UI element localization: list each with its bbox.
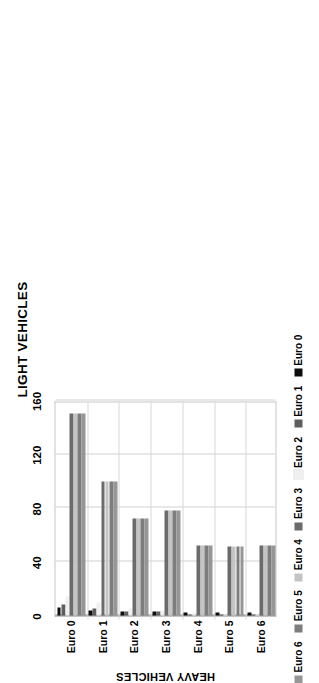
bar-euro-0-euro-1 <box>88 610 92 615</box>
bar-euro-6-euro-1 <box>113 481 117 615</box>
value-tick-label: 120 <box>30 445 42 464</box>
legend-swatch-icon <box>294 573 302 581</box>
bar-euro-1-euro-1 <box>92 608 96 615</box>
value-tick-label: 160 <box>30 391 42 410</box>
bar-euro-6-euro-0 <box>81 413 85 615</box>
bar-euro-3-euro-6 <box>259 545 263 615</box>
legend-item-euro-4[interactable]: Euro 4 <box>292 539 303 581</box>
bar-euro-1-euro-6 <box>251 614 255 615</box>
bar-euro-0-euro-4 <box>183 612 187 615</box>
legend-label: Euro 4 <box>292 539 303 570</box>
bar-euro-1-euro-3 <box>156 611 160 615</box>
bar-euro-4-euro-0 <box>73 413 77 615</box>
category-label-euro-4: Euro 4 <box>191 620 203 678</box>
bar-euro-1-euro-4 <box>188 614 192 615</box>
bar-euro-2-euro-4 <box>192 612 196 615</box>
category-separator <box>245 402 246 619</box>
bar-euro-3-euro-2 <box>132 518 136 615</box>
legend-item-euro-3[interactable]: Euro 3 <box>292 487 303 529</box>
bar-euro-6-euro-4 <box>208 545 212 615</box>
legend-swatch-icon <box>294 419 302 427</box>
bar-euro-5-euro-1 <box>109 481 113 615</box>
category-separator <box>118 402 119 619</box>
bar-euro-1-euro-5 <box>219 614 223 615</box>
legend-swatch-icon <box>294 675 302 683</box>
bar-euro-2-euro-5 <box>223 614 227 615</box>
bar-euro-5-euro-0 <box>77 413 81 615</box>
legend-label: Euro 3 <box>292 487 303 518</box>
bar-euro-3-euro-0 <box>69 413 73 615</box>
bar-euro-3-euro-1 <box>101 481 105 615</box>
legend-swatch-icon <box>294 368 302 376</box>
legend-swatch-icon <box>294 470 302 478</box>
legend-label: Euro 2 <box>292 436 303 467</box>
bar-euro-4-euro-6 <box>263 545 267 615</box>
legend-label: Euro 0 <box>292 334 303 365</box>
category-label-euro-2: Euro 2 <box>127 620 139 678</box>
bar-euro-6-euro-3 <box>176 510 180 615</box>
legend-item-euro-1[interactable]: Euro 1 <box>292 385 303 427</box>
category-separator <box>87 402 88 619</box>
gridline-160 <box>55 399 275 400</box>
category-separator <box>214 402 215 619</box>
legend-swatch-icon <box>294 624 302 632</box>
bar-euro-4-euro-4 <box>200 545 204 615</box>
bar-euro-5-euro-2 <box>140 518 144 615</box>
value-tick-label: 80 <box>30 502 42 515</box>
category-label-euro-5: Euro 5 <box>222 620 234 678</box>
category-label-euro-6: Euro 6 <box>254 620 266 678</box>
bar-euro-6-euro-6 <box>271 545 275 615</box>
bar-euro-0-euro-0 <box>57 607 61 615</box>
category-label-euro-1: Euro 1 <box>96 620 108 678</box>
bar-euro-5-euro-6 <box>267 545 271 615</box>
bar-euro-1-euro-2 <box>124 611 128 615</box>
bar-euro-2-euro-3 <box>160 610 164 615</box>
bar-euro-3-euro-4 <box>196 545 200 615</box>
legend-label: Euro 5 <box>292 590 303 621</box>
legend-swatch-icon <box>294 522 302 530</box>
legend-item-euro-2[interactable]: Euro 2 <box>292 436 303 478</box>
bar-euro-5-euro-4 <box>204 545 208 615</box>
plot-area <box>54 401 276 616</box>
value-tick-label: 0 <box>30 613 42 619</box>
value-tick-label: 40 <box>30 556 42 569</box>
bar-euro-2-euro-0 <box>65 596 69 615</box>
chart-legend: Euro 6Euro 5Euro 4Euro 3Euro 2Euro 1Euro… <box>292 401 303 616</box>
bar-euro-4-euro-3 <box>168 510 172 615</box>
bar-euro-5-euro-5 <box>236 546 240 615</box>
bar-euro-0-euro-5 <box>215 612 219 615</box>
bar-euro-5-euro-3 <box>172 510 176 615</box>
legend-item-euro-5[interactable]: Euro 5 <box>292 590 303 632</box>
bar-euro-0-euro-6 <box>247 612 251 615</box>
category-label-euro-0: Euro 0 <box>64 620 76 678</box>
bar-euro-1-euro-0 <box>61 604 65 615</box>
bar-euro-6-euro-5 <box>240 546 244 615</box>
category-separator <box>182 402 183 619</box>
bar-euro-3-euro-5 <box>227 546 231 615</box>
bar-euro-4-euro-1 <box>105 481 109 615</box>
legend-item-euro-0[interactable]: Euro 0 <box>292 334 303 376</box>
legend-label: Euro 6 <box>292 641 303 672</box>
bar-euro-2-euro-1 <box>96 602 100 615</box>
bar-euro-2-euro-6 <box>255 614 259 615</box>
legend-label: Euro 1 <box>292 385 303 416</box>
bar-euro-3-euro-3 <box>164 510 168 615</box>
category-separator <box>150 402 151 619</box>
bar-euro-2-euro-2 <box>128 608 132 615</box>
bar-euro-4-euro-2 <box>136 518 140 615</box>
bar-euro-0-euro-3 <box>152 611 156 615</box>
bar-euro-6-euro-2 <box>144 518 148 615</box>
category-label-euro-3: Euro 3 <box>159 620 171 678</box>
chart-title: LIGHT VEHICLES <box>14 0 29 678</box>
bar-euro-0-euro-2 <box>120 611 124 615</box>
bar-euro-4-euro-5 <box>231 546 235 615</box>
legend-item-euro-6[interactable]: Euro 6 <box>292 641 303 683</box>
